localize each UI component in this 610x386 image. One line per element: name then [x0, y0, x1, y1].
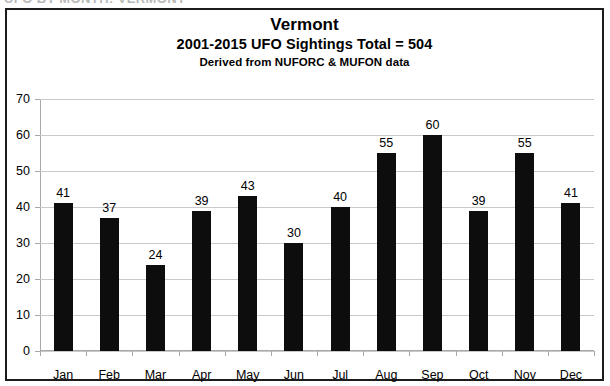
x-axis-tick [271, 351, 272, 356]
x-axis-label-may: May [225, 359, 271, 382]
bar-value-label: 39 [195, 195, 209, 208]
x-axis-tick [363, 351, 364, 356]
bar-value-label: 55 [379, 137, 393, 150]
bar-may[interactable]: 43 [238, 196, 257, 351]
x-axis-label-mar: Mar [132, 359, 178, 382]
x-axis-tick [40, 351, 41, 356]
x-axis-tick [594, 351, 595, 356]
bar-cell: 43 [225, 99, 271, 351]
bar-cell: 55 [502, 99, 548, 351]
x-axis-tick [317, 351, 318, 356]
bar-cell: 60 [409, 99, 455, 351]
x-axis-label-aug: Aug [363, 359, 409, 382]
x-axis-tick [132, 351, 133, 356]
y-axis-tick-label: 0 [23, 345, 30, 357]
x-axis-label-sep: Sep [409, 359, 455, 382]
y-axis-tick-label: 50 [16, 165, 30, 177]
cut-off-header-text: UFO BY MONTH: VERMONT [4, 0, 186, 6]
bar-aug[interactable]: 55 [377, 153, 396, 351]
x-axis-tick [456, 351, 457, 356]
bar-sep[interactable]: 60 [423, 135, 442, 351]
chart-source-note: Derived from NUFORC & MUFON data [7, 54, 602, 70]
bar-value-label: 39 [472, 195, 486, 208]
bar-oct[interactable]: 39 [469, 211, 488, 351]
bar-value-label: 43 [241, 180, 255, 193]
bar-value-label: 41 [564, 187, 578, 200]
bar-cell: 24 [132, 99, 178, 351]
x-axis-label-oct: Oct [456, 359, 502, 382]
bar-jan[interactable]: 41 [54, 203, 73, 351]
y-axis-tick-label: 20 [16, 273, 30, 285]
x-axis-label-jan: Jan [40, 359, 86, 382]
bar-dec[interactable]: 41 [561, 203, 580, 351]
bar-value-label: 40 [333, 191, 347, 204]
bar-apr[interactable]: 39 [192, 211, 211, 351]
y-axis-tick-label: 40 [16, 201, 30, 213]
bar-feb[interactable]: 37 [100, 218, 119, 351]
x-axis-tick [548, 351, 549, 356]
x-axis-tick [409, 351, 410, 356]
x-axis-tick [502, 351, 503, 356]
y-axis-tick-label: 30 [16, 237, 30, 249]
bar-value-label: 37 [102, 202, 116, 215]
bar-nov[interactable]: 55 [515, 153, 534, 351]
bar-cell: 41 [40, 99, 86, 351]
chart-subtitle: 2001-2015 UFO Sightings Total = 504 [7, 35, 602, 54]
cut-off-header-strip: UFO BY MONTH: VERMONT [0, 0, 610, 8]
bar-value-label: 30 [287, 227, 301, 240]
y-axis-tick-label: 60 [16, 129, 30, 141]
bar-value-label: 60 [426, 119, 440, 132]
x-axis-labels: JanFebMarAprMayJunJulAugSepOctNovDec [40, 359, 594, 382]
bar-jun[interactable]: 30 [284, 243, 303, 351]
x-axis-label-feb: Feb [86, 359, 132, 382]
x-axis-tick [86, 351, 87, 356]
x-axis-label-jun: Jun [271, 359, 317, 382]
bar-cell: 39 [456, 99, 502, 351]
x-axis-tick [225, 351, 226, 356]
bar-series: 413724394330405560395541 [40, 99, 594, 351]
chart-title: Vermont [7, 14, 602, 35]
bar-cell: 39 [179, 99, 225, 351]
y-axis-tick-label: 10 [16, 309, 30, 321]
plot-area: 706050403020100 413724394330405560395541 [40, 99, 594, 351]
chart-frame: Vermont 2001-2015 UFO Sightings Total = … [5, 8, 604, 381]
x-axis-label-dec: Dec [548, 359, 594, 382]
chart-title-block: Vermont 2001-2015 UFO Sightings Total = … [7, 14, 602, 70]
y-axis-tick-label: 70 [16, 93, 30, 105]
x-axis-label-nov: Nov [502, 359, 548, 382]
bar-jul[interactable]: 40 [331, 207, 350, 351]
bar-cell: 41 [548, 99, 594, 351]
bar-value-label: 41 [56, 187, 70, 200]
x-axis-label-apr: Apr [179, 359, 225, 382]
bar-mar[interactable]: 24 [146, 265, 165, 351]
x-axis-label-jul: Jul [317, 359, 363, 382]
bar-value-label: 24 [148, 249, 162, 262]
bar-cell: 40 [317, 99, 363, 351]
x-axis-tick [179, 351, 180, 356]
bar-cell: 30 [271, 99, 317, 351]
bar-cell: 55 [363, 99, 409, 351]
bar-cell: 37 [86, 99, 132, 351]
bar-value-label: 55 [518, 137, 532, 150]
